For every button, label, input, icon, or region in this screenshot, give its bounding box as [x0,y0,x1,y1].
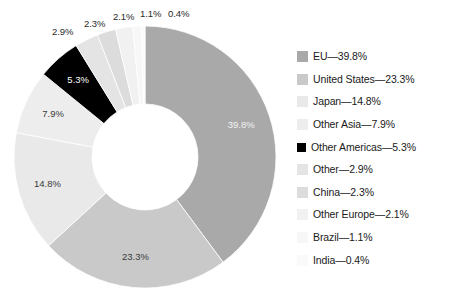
legend-color-swatch [297,74,308,85]
slice-value-label: 23.3% [122,251,149,262]
legend-label: Brazil—1.1% [313,231,373,243]
legend-color-swatch [297,143,306,152]
legend-item[interactable]: Brazil—1.1% [297,226,461,249]
legend-label: Other Asia—7.9% [313,118,395,130]
slice-label-1-1: 1.1% [140,8,161,19]
legend-item[interactable]: EU—39.8% [297,45,461,68]
legend-item[interactable]: India—0.4% [297,248,461,271]
donut-svg: 39.8%23.3%14.8%7.9%5.3% [0,0,290,299]
slice-label-2-3: 2.3% [84,18,105,29]
legend-color-swatch [297,232,308,243]
legend-color-swatch [297,96,308,107]
donut-plot-area: 39.8%23.3%14.8%7.9%5.3% 2.9% 2.3% 2.1% 1… [0,0,290,299]
legend-label: Other Europe—2.1% [313,208,409,220]
legend-item[interactable]: Other Asia—7.9% [297,113,461,136]
legend-item[interactable]: China—2.3% [297,181,461,204]
slice-label-2-1: 2.1% [113,11,134,22]
legend-color-swatch [297,51,308,62]
donut-chart: 39.8%23.3%14.8%7.9%5.3% 2.9% 2.3% 2.1% 1… [0,0,461,299]
legend-color-swatch [297,119,308,130]
legend-item[interactable]: Other—2.9% [297,158,461,181]
legend-color-swatch [297,164,308,175]
slice-value-label: 7.9% [42,108,64,119]
slice-value-label: 14.8% [34,178,61,189]
legend-item[interactable]: Japan—14.8% [297,90,461,113]
legend-label: Other Americas—5.3% [311,141,416,153]
legend-item[interactable]: Other Europe—2.1% [297,203,461,226]
legend-label: China—2.3% [313,186,374,198]
legend-label: India—0.4% [313,254,369,266]
legend-color-swatch [297,187,308,198]
donut-slices [14,26,276,288]
legend-item[interactable]: Other Americas—5.3% [297,135,461,158]
legend-label: Other—2.9% [313,163,373,175]
legend-item[interactable]: United States—23.3% [297,68,461,91]
legend-label: Japan—14.8% [313,95,381,107]
legend-color-swatch [297,209,308,220]
chart-legend: EU—39.8%United States—23.3%Japan—14.8%Ot… [297,45,461,271]
legend-label: EU—39.8% [313,50,367,62]
slice-value-label: 39.8% [228,119,255,130]
slice-label-0-4: 0.4% [168,8,189,19]
legend-label: United States—23.3% [313,73,414,85]
slice-value-label: 5.3% [67,74,89,85]
slice-label-2-9: 2.9% [52,26,73,37]
legend-color-swatch [297,255,308,266]
